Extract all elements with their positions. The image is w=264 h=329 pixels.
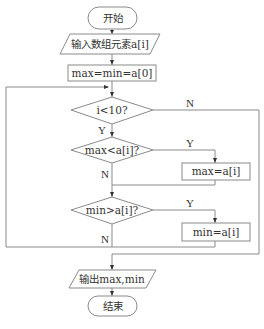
- node-input: 输入数组元素a[i]: [60, 34, 160, 54]
- arrowhead: [213, 158, 217, 163]
- min-cond-text: min>a[i]?: [86, 204, 139, 216]
- arrowhead: [213, 218, 217, 223]
- label-min-no: N: [101, 233, 109, 245]
- loop-cond-text: i<10?: [96, 104, 128, 116]
- arrowhead: [110, 92, 114, 97]
- label-max-no: N: [101, 168, 109, 180]
- label-loop-no: N: [186, 97, 194, 109]
- node-output: 输出max,min: [69, 270, 156, 288]
- output-text: 输出max,min: [79, 273, 145, 285]
- min-assign-text: min=a[i]: [193, 226, 240, 238]
- end-text: 结束: [103, 300, 124, 312]
- arrowhead: [110, 132, 114, 137]
- node-end: 结束: [88, 296, 137, 316]
- edge-min-yes: [153, 210, 215, 223]
- arrowhead: [104, 85, 109, 89]
- arrowhead: [110, 265, 114, 270]
- arrowhead: [110, 30, 114, 34]
- start-text: 开始: [103, 12, 124, 24]
- edge-loop-no: [112, 110, 259, 270]
- node-start: 开始: [88, 7, 137, 29]
- arrowhead: [110, 60, 114, 65]
- label-max-yes: Y: [186, 137, 194, 149]
- edge-max-merge: [112, 180, 215, 185]
- input-text: 输入数组元素a[i]: [71, 38, 149, 50]
- flowchart: 开始 输入数组元素a[i] max=min=a[0] i<10? max<a[i…: [0, 0, 264, 329]
- edge-min-merge: [6, 241, 215, 247]
- label-loop-yes: Y: [98, 124, 106, 136]
- node-max-cond: max<a[i]?: [71, 137, 153, 163]
- node-min-cond: min>a[i]?: [71, 197, 153, 224]
- arrowhead: [110, 291, 114, 296]
- label-min-yes: Y: [186, 197, 194, 209]
- node-init: max=min=a[0]: [68, 65, 156, 81]
- max-cond-text: max<a[i]?: [85, 144, 140, 156]
- node-max-assign: max=a[i]: [182, 163, 250, 180]
- max-assign-text: max=a[i]: [192, 165, 241, 177]
- node-min-assign: min=a[i]: [182, 223, 250, 241]
- node-loop-cond: i<10?: [71, 97, 153, 124]
- init-text: max=min=a[0]: [72, 67, 153, 79]
- edge-max-yes: [153, 150, 215, 163]
- arrowhead: [110, 192, 114, 197]
